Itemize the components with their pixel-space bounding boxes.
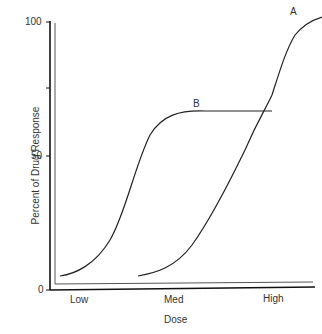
x-label-high: High: [263, 293, 284, 304]
x-axis-title: Dose: [164, 314, 187, 325]
dose-response-chart: [0, 0, 322, 334]
curve-b-label: B: [193, 98, 200, 109]
y-axis-title: Percent of Drug Response: [30, 101, 41, 231]
y-tick-label-100: 100: [25, 16, 42, 27]
x-axis: [50, 287, 315, 290]
curve-a: [138, 17, 322, 276]
inner-x-line: [55, 282, 313, 284]
curve-a-label: A: [290, 6, 297, 17]
curve-b: [60, 111, 272, 276]
y-tick-label-0: 0: [38, 284, 44, 295]
x-label-low: Low: [70, 294, 88, 305]
x-label-med: Med: [164, 294, 183, 305]
